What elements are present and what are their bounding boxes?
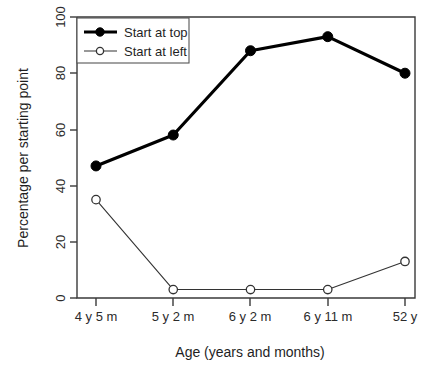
- data-point: [324, 285, 332, 293]
- legend-marker-filled-circle-icon: [96, 28, 104, 36]
- x-tick-label-0: 4 y 5 m: [75, 309, 118, 324]
- line-chart: 0 20 40 60 80 100 4 y 5 m 5 y 2 m 6 y 2 …: [0, 0, 437, 375]
- x-tick-label-1: 5 y 2 m: [152, 309, 195, 324]
- data-point: [401, 257, 409, 265]
- legend-label-start-at-top: Start at top: [124, 25, 188, 40]
- data-point: [91, 161, 101, 171]
- data-point: [168, 130, 178, 140]
- data-point: [246, 285, 254, 293]
- legend-marker-open-circle-icon: [96, 47, 103, 54]
- chart-figure: 0 20 40 60 80 100 4 y 5 m 5 y 2 m 6 y 2 …: [0, 0, 437, 375]
- x-tick-label-3: 6 y 11 m: [304, 309, 353, 324]
- y-tick-label-80: 80: [53, 66, 68, 80]
- y-tick-label-40: 40: [53, 179, 68, 193]
- y-tick-label-60: 60: [53, 123, 68, 137]
- y-axis-title: Percentage per starting point: [15, 68, 31, 248]
- x-tick-label-2: 6 y 2 m: [229, 309, 272, 324]
- y-tick-label-20: 20: [53, 235, 68, 249]
- data-point: [246, 46, 256, 56]
- data-point: [400, 68, 410, 78]
- data-point: [323, 32, 333, 42]
- data-point: [92, 195, 100, 203]
- legend: Start at top Start at left: [77, 18, 189, 63]
- legend-label-start-at-left: Start at left: [124, 44, 187, 59]
- x-tick-label-4: 52 y: [393, 309, 418, 324]
- x-axis-title: Age (years and months): [175, 344, 324, 360]
- data-point: [169, 285, 177, 293]
- y-tick-label-100: 100: [53, 6, 68, 28]
- y-tick-label-0: 0: [53, 294, 68, 301]
